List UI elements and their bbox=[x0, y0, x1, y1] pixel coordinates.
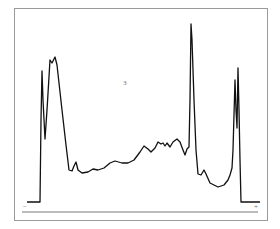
plus-marker: + bbox=[254, 204, 258, 211]
densitometer-trace-chart bbox=[0, 0, 280, 229]
panel-label: 3 bbox=[123, 80, 127, 87]
minus-marker: − bbox=[23, 204, 27, 211]
trace-line bbox=[27, 24, 260, 202]
